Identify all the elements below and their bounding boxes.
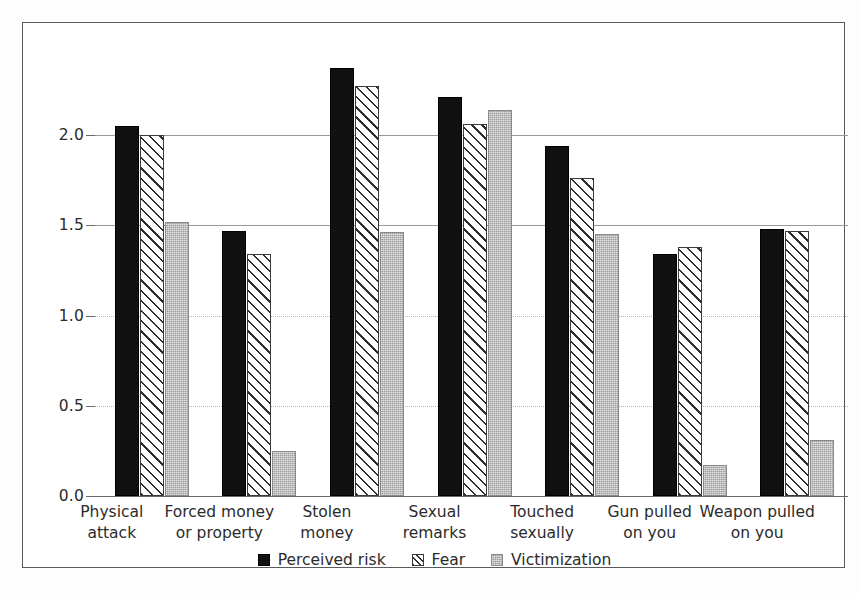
bar [810, 440, 834, 496]
bar [653, 254, 677, 496]
bar [595, 234, 619, 496]
y-tick-mark [86, 135, 95, 136]
bar [463, 124, 487, 496]
plot-area: 0.00.51.01.52.0 [95, 63, 848, 496]
legend-label: Fear [432, 551, 465, 569]
bar [115, 126, 139, 496]
x-axis-label-line: on you [677, 523, 837, 544]
legend-item-victimization[interactable]: Victimization [491, 551, 611, 569]
figure-canvas: 0.00.51.01.52.0 PhysicalattackForced mon… [0, 0, 858, 594]
bar [355, 86, 379, 496]
bar [488, 110, 512, 496]
bar-group [438, 63, 512, 496]
bar-group [653, 63, 727, 496]
y-tick-mark [86, 225, 95, 226]
y-tick-label-0.5: 0.5 [59, 397, 84, 415]
chart-frame: 0.00.51.01.52.0 PhysicalattackForced mon… [22, 22, 845, 568]
bar [140, 135, 164, 496]
bar [678, 247, 702, 496]
bar [703, 465, 727, 496]
y-tick-label-1.0: 1.0 [59, 307, 84, 325]
bar [570, 178, 594, 496]
bar [438, 97, 462, 496]
legend-item-perceived-risk[interactable]: Perceived risk [258, 551, 386, 569]
legend-swatch-icon [491, 554, 503, 566]
legend-item-fear[interactable]: Fear [412, 551, 465, 569]
bar [222, 231, 246, 496]
bar [165, 222, 189, 496]
bar [330, 68, 354, 496]
bar-group [115, 63, 189, 496]
legend-swatch-icon [258, 554, 270, 566]
bar-group [222, 63, 296, 496]
gridline-0.0 [95, 496, 848, 497]
x-axis-label: Weapon pulledon you [677, 502, 837, 544]
legend-label: Perceived risk [278, 551, 386, 569]
legend-swatch-icon [412, 554, 424, 566]
y-tick-mark [86, 406, 95, 407]
bar-group [330, 63, 404, 496]
chart-legend: Perceived riskFearVictimization [23, 551, 846, 569]
bar [247, 254, 271, 496]
bar [785, 231, 809, 496]
bar [760, 229, 784, 496]
y-tick-label-1.5: 1.5 [59, 216, 84, 234]
bar [545, 146, 569, 496]
bar [272, 451, 296, 496]
y-tick-label-2.0: 2.0 [59, 126, 84, 144]
legend-label: Victimization [511, 551, 611, 569]
bar-group [760, 63, 834, 496]
bar [380, 232, 404, 496]
y-tick-mark [86, 316, 95, 317]
y-tick-mark [86, 496, 95, 497]
bar-group [545, 63, 619, 496]
x-axis-label-line: Weapon pulled [677, 502, 837, 523]
